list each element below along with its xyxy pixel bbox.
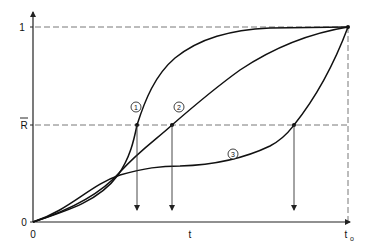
y-label-rbar: R: [20, 118, 28, 131]
svg-text:2: 2: [177, 104, 181, 111]
x-label-t0: t o: [345, 229, 354, 242]
svg-text:3: 3: [231, 151, 235, 158]
svg-text:o: o: [350, 235, 354, 242]
svg-text:t: t: [345, 229, 348, 240]
curve-2: [33, 27, 348, 222]
x-label-zero: 0: [30, 229, 36, 240]
y-label-one: 1: [19, 22, 25, 33]
curve-3-label: 3: [228, 149, 238, 159]
y-label-zero: 0: [21, 217, 27, 228]
svg-text:R: R: [20, 120, 27, 131]
reliability-chart: 1 2 3 1 R 0 0 t t o: [0, 0, 368, 249]
end-point: [346, 25, 350, 29]
curve-3: [33, 27, 348, 222]
curve-1-label: 1: [131, 102, 141, 112]
curve-1: [33, 27, 348, 222]
svg-text:1: 1: [134, 104, 138, 111]
x-label-t: t: [189, 229, 192, 240]
curve-2-label: 2: [174, 102, 184, 112]
